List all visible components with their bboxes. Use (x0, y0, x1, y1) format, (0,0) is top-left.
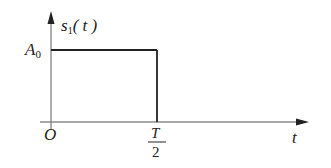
pulse-end-denominator: 2 (152, 144, 160, 160)
origin-label: O (44, 125, 56, 144)
x-axis-arrow-icon (296, 119, 309, 126)
y-axis-label: s1( t ) (61, 16, 98, 36)
amplitude-label: A0 (24, 40, 41, 60)
pulse-diagram: s1( t ) A0 O T 2 t (0, 0, 331, 168)
pulse-end-numerator: T (151, 125, 161, 141)
y-axis-arrow-icon (48, 11, 55, 24)
x-axis-label: t (292, 128, 298, 147)
